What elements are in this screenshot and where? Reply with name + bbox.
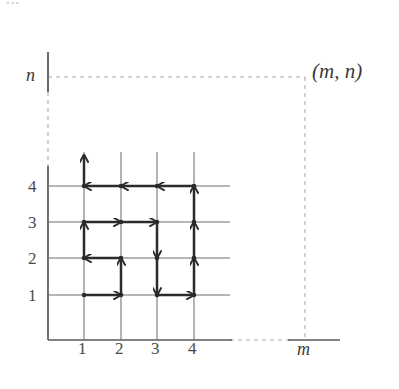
corner-point-label: (m, n) (312, 61, 362, 82)
x-tick-label-1: 1 (78, 340, 87, 357)
dashed-guide-lines (48, 77, 305, 340)
lattice-nodes (82, 184, 197, 298)
y-tick-label-3: 3 (28, 214, 37, 231)
x-tick-label-2: 2 (115, 340, 124, 357)
y-tick-label-1: 1 (28, 287, 37, 304)
lattice-path-figure: ... (0, 0, 399, 389)
y-axis-label: n (26, 66, 35, 84)
x-axis-label: m (297, 340, 310, 358)
y-tick-label-2: 2 (28, 250, 37, 267)
x-tick-label-3: 3 (151, 340, 160, 357)
grid-lines (48, 152, 230, 340)
path-arrows (84, 155, 194, 295)
x-tick-label-4: 4 (188, 340, 197, 357)
y-tick-label-4: 4 (28, 178, 37, 195)
